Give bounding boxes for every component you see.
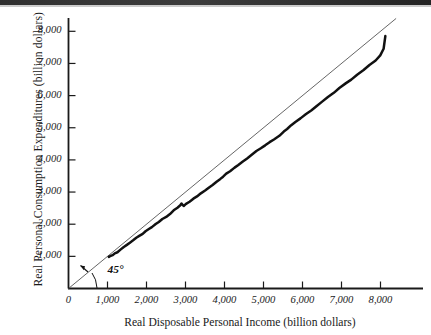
- y-tick-label: 2,000: [14, 217, 62, 228]
- x-tick-label: 8,000: [357, 294, 405, 305]
- y-tick-label: 3,000: [14, 185, 62, 196]
- consumption-data-line: [109, 36, 386, 257]
- y-tick-label: 4,000: [14, 153, 62, 164]
- y-tick-label: 8,000: [14, 24, 62, 35]
- y-tick-label: 5,000: [14, 121, 62, 132]
- y-tick-label: 6,000: [14, 89, 62, 100]
- chart-figure: Real Personal Consumption Expenditures (…: [0, 0, 431, 335]
- y-axis-ticks: [69, 31, 76, 256]
- forty-five-degree-reference-line: [69, 18, 397, 288]
- y-tick-label: 1,000: [14, 249, 62, 260]
- plot-area: [0, 0, 431, 335]
- x-axis-ticks: [108, 282, 381, 289]
- y-tick-label: 7,000: [14, 56, 62, 67]
